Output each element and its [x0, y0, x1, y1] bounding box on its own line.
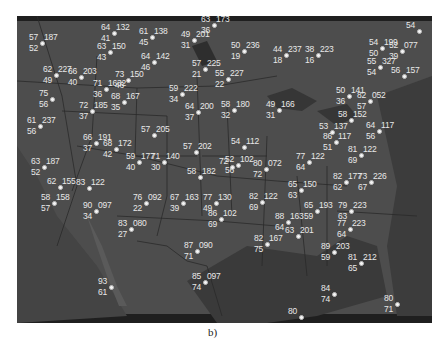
station-dewpoint: 64: [337, 230, 346, 239]
station-temperature: 88: [275, 212, 284, 221]
station-dewpoint: 69: [249, 203, 258, 212]
station-temperature: 57: [141, 125, 150, 134]
station-pressure: 203: [336, 242, 350, 251]
station-dewpoint: 63: [288, 191, 297, 200]
station-pressure: 117: [338, 132, 351, 141]
station-dewpoint: 65: [348, 264, 357, 273]
station-pressure: 182: [202, 167, 216, 176]
station-temperature: 64: [101, 23, 110, 32]
station-temperature: 59: [126, 152, 135, 161]
station-temperature: 52: [389, 41, 398, 50]
station-dewpoint: 40: [126, 163, 135, 172]
station-temperature: 73: [115, 70, 124, 79]
station-temperature: 87: [184, 241, 193, 250]
station-pressure: 227: [230, 69, 244, 78]
station-dewpoint: 72: [253, 170, 262, 179]
station-temperature: 54: [369, 38, 378, 47]
station-dewpoint: 62: [333, 183, 342, 192]
station-pressure: 173: [216, 16, 230, 24]
station-pressure: 080: [133, 219, 147, 228]
station-pressure: 223: [352, 219, 366, 228]
station-temperature: 66: [83, 133, 92, 142]
station-dewpoint: 22: [215, 80, 224, 89]
station-temperature: 80: [288, 307, 297, 316]
station-pressure: 122: [363, 145, 377, 154]
station-temperature: 61: [139, 27, 148, 36]
station-temperature: 72: [79, 101, 88, 110]
station-dewpoint: 43: [97, 53, 106, 62]
station-temperature: 50: [336, 86, 345, 95]
station-temperature: 82: [249, 192, 258, 201]
station-pressure: 097: [98, 201, 112, 210]
station-dewpoint: 37: [79, 112, 88, 121]
station-pressure: 201: [300, 226, 314, 235]
station-dewpoint: 74: [192, 283, 201, 292]
station-pressure: 167: [126, 92, 140, 101]
station-pressure: 237: [42, 116, 56, 125]
station-dewpoint: 16: [305, 56, 314, 65]
station-pressure: 077: [404, 41, 418, 50]
station-dewpoint: 32: [221, 111, 230, 120]
station-dewpoint: 45: [139, 38, 148, 47]
station-temperature: 57: [192, 59, 201, 68]
station-temperature: 68: [103, 139, 112, 148]
station-pressure: 205: [156, 125, 170, 134]
station-pressure: 202: [198, 142, 212, 151]
station-temperature: 63: [31, 157, 40, 166]
station-pressure: 163: [185, 193, 199, 202]
station-temperature: 56: [391, 66, 400, 75]
station-temperature: 61: [27, 116, 36, 125]
station-dewpoint: 37: [83, 144, 92, 153]
station-pressure: 140: [166, 152, 180, 161]
station-temperature: 65: [304, 201, 313, 210]
station-pressure: 122: [264, 192, 278, 201]
station-pressure: 138: [154, 27, 168, 36]
station-circle-icon: [417, 29, 422, 34]
station-pressure: 097: [207, 272, 221, 281]
station-pressure: 222: [184, 84, 198, 93]
station-dewpoint: 36: [336, 97, 345, 106]
station-temperature: 64: [366, 121, 375, 130]
station-temperature: 57: [29, 33, 38, 42]
station-dewpoint: 56: [39, 100, 48, 109]
station-temperature: 53: [319, 122, 328, 131]
station-dewpoint: 35: [111, 103, 120, 112]
station-pressure: 180: [236, 100, 250, 109]
station-dewpoint: 39: [170, 204, 179, 213]
station-temperature: 44: [273, 45, 282, 54]
station-dewpoint: 56: [366, 132, 375, 141]
station-temperature: 80: [253, 159, 262, 168]
station-pressure: 223: [320, 45, 334, 54]
station-pressure: 137: [334, 122, 348, 131]
station-temperature: 58: [187, 167, 196, 176]
station-dewpoint: 59: [304, 212, 313, 221]
station-dewpoint: 64: [275, 223, 284, 232]
station-dewpoint: 52: [31, 168, 40, 177]
station-temperature: 84: [321, 284, 330, 293]
station-dewpoint: 30: [151, 163, 160, 172]
station-pressure: 155: [62, 177, 76, 186]
station-temperature: 64: [185, 102, 194, 111]
station-temperature: 72: [219, 157, 228, 166]
station-pressure: 158: [56, 193, 70, 202]
station-dewpoint: 31: [181, 41, 190, 50]
station-dewpoint: 46: [115, 81, 124, 90]
station-dewpoint: 59: [321, 253, 330, 262]
station-dewpoint: 40: [68, 78, 77, 87]
station-pressure: 185: [94, 101, 108, 110]
station-temperature: 75: [39, 89, 48, 98]
station-dewpoint: 64: [296, 163, 305, 172]
station-temperature: 63: [201, 16, 210, 24]
station-dewpoint: 42: [103, 150, 112, 159]
station-temperature: 81: [348, 145, 357, 154]
station-temperature: 59: [169, 84, 178, 93]
station-circle-icon: [230, 165, 235, 170]
station-dewpoint: 67: [358, 183, 367, 192]
station-pressure: 166: [281, 100, 295, 109]
station-temperature: 82: [333, 172, 342, 181]
station-temperature: 63: [285, 226, 294, 235]
station-temperature: 64: [141, 52, 150, 61]
station-pressure: 130: [218, 193, 232, 202]
station-temperature: 86: [323, 132, 332, 141]
station-circle-icon: [50, 97, 55, 102]
